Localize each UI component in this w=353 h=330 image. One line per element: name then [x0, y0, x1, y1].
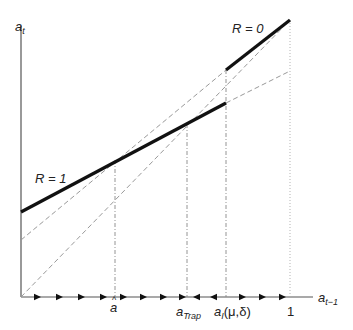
- arrow-right-icon: [279, 294, 286, 300]
- a-trap-tick: aTrap: [176, 305, 201, 321]
- arrow-right-icon: [78, 294, 85, 300]
- arrow-left-icon: [210, 294, 217, 300]
- x-axis-label: at−1: [318, 291, 338, 307]
- arrow-right-icon: [259, 294, 266, 300]
- arrow-right-icon: [120, 294, 127, 300]
- arrow-left-icon: [193, 294, 200, 300]
- diagram-canvas: [0, 0, 353, 330]
- arrow-right-icon: [179, 294, 186, 300]
- r0-extension-dashed: [21, 70, 226, 240]
- arrow-right-icon: [34, 294, 41, 300]
- arrow-right-icon: [160, 294, 167, 300]
- r0-label: R = 0: [232, 22, 263, 35]
- y-axis-label: at: [15, 20, 25, 36]
- arrow-right-icon: [100, 294, 107, 300]
- 45-degree-line: [21, 20, 290, 297]
- arrow-right-icon: [56, 294, 63, 300]
- arrow-right-icon: [140, 294, 147, 300]
- r1-line: [21, 103, 226, 212]
- r1-label: R = 1: [35, 172, 66, 185]
- arrow-right-icon: [239, 294, 246, 300]
- a-hat-tick: ^a: [110, 301, 117, 314]
- a-i-tick: aI(μ,δ): [214, 305, 251, 321]
- phase-diagram: at at−1 R = 0 R = 1 ^a aTrap aI(μ,δ) 1: [0, 0, 353, 330]
- one-tick: 1: [287, 305, 294, 318]
